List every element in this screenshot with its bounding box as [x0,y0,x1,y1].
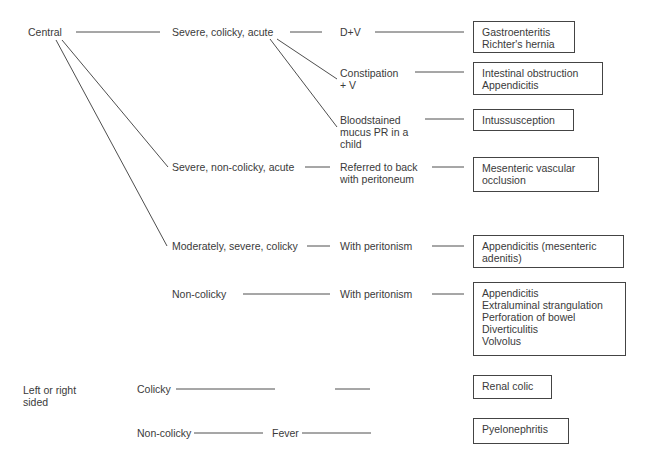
feature-fever: Fever [272,427,299,439]
diagnosis-box-mesenteric: Mesenteric vascular occlusion [473,157,599,192]
feature-bloodstained-mucus: Bloodstained mucus PR in a child [340,114,408,150]
pain-severe-colicky-acute: Severe, colicky, acute [172,26,273,38]
diagnosis-box-renal-colic: Renal colic [473,375,552,399]
feature-dv: D+V [340,26,361,38]
pain-colicky-lateral: Colicky [137,383,171,395]
location-left-or-right: Left or right sided [23,384,76,408]
diagnosis-box-obstruction: Intestinal obstruction Appendicitis [473,62,603,95]
diagnosis-box-pyelonephritis: Pyelonephritis [473,418,569,444]
pain-moderately-severe-colicky: Moderately, severe, colicky [172,240,298,252]
feature-with-peritonism-1: With peritonism [340,240,412,252]
feature-constipation-v: Constipation + V [340,67,398,91]
diagnosis-box-intussusception: Intussusception [473,109,574,131]
diagnosis-box-gastroenteritis: Gastroenteritis Richter's hernia [473,21,575,53]
diagnosis-box-appendicitis-mesenteric: Appendicitis (mesenteric adenitis) [473,235,624,268]
pain-noncolicky-central: Non-colicky [172,288,226,300]
feature-referred-to-back: Referred to back with peritoneum [340,161,418,185]
location-central: Central [28,26,62,38]
pain-noncolicky-lateral: Non-colicky [137,427,191,439]
diagnosis-box-peritonism-list: Appendicitis Extraluminal strangulation … [473,282,626,356]
pain-severe-noncolicky-acute: Severe, non-colicky, acute [172,161,294,173]
feature-with-peritonism-2: With peritonism [340,288,412,300]
